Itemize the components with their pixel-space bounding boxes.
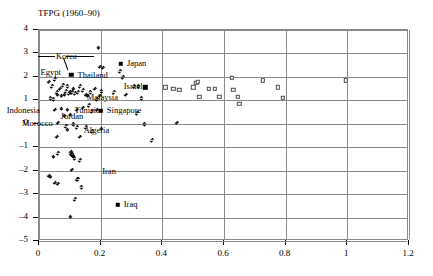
y-axis-tick-label: –4 [6, 211, 28, 221]
data-point-diamond-filled [70, 165, 74, 169]
data-point-square-open [260, 78, 264, 82]
data-point-diamond-filled [72, 85, 76, 89]
data-point-diamond-filled [100, 87, 104, 91]
data-point-diamond-filled [56, 149, 60, 153]
point-label-singapore: Singapore [107, 105, 141, 115]
data-point-diamond-filled [47, 78, 51, 82]
y-axis-tick-label: 2 [6, 70, 28, 80]
y-axis-tick-label: –3 [6, 187, 28, 197]
chart-root: TFPG (1960–90) 43210–1–2–3–4–500.20.40.6… [0, 0, 433, 276]
data-point-square-open [217, 95, 221, 99]
x-axis-tick-mark [408, 240, 409, 245]
y-axis-tick-label: 3 [6, 46, 28, 56]
point-label-japan: Japan [127, 58, 146, 68]
data-point-square-open [206, 86, 210, 90]
data-point-diamond-filled [66, 106, 70, 110]
data-point-diamond-filled [78, 156, 82, 160]
data-point-diamond-filled [80, 183, 84, 187]
data-point-square-open [196, 79, 200, 83]
data-point-square-open [213, 86, 217, 90]
gridline-horizontal [39, 171, 407, 172]
data-point-square-open [197, 95, 201, 99]
y-axis-tick-label: –5 [6, 234, 28, 244]
data-point-diamond-filled [143, 120, 147, 124]
data-point-square-open [280, 96, 284, 100]
data-point-diamond-filled [61, 81, 65, 85]
data-point-square-open [171, 86, 175, 90]
data-point-square-open [236, 95, 240, 99]
x-axis-tick-label: 0.6 [208, 248, 238, 258]
x-axis-tick-label: 1.2 [393, 248, 423, 258]
y-axis-tick-label: 1 [6, 93, 28, 103]
gridline-horizontal [39, 218, 407, 219]
point-label-jordan: Jordan [61, 111, 84, 121]
data-point-diamond-filled [69, 212, 73, 216]
leader-line-horizontal [66, 56, 94, 57]
data-point-square-open [344, 78, 348, 82]
data-point-diamond-filled [70, 148, 74, 152]
x-axis-tick-label: 0.8 [270, 248, 300, 258]
data-point-square-filled [143, 85, 147, 89]
data-point-square-open [276, 85, 280, 89]
data-point-square-open [177, 88, 181, 92]
y-axis-tick-label: –1 [6, 140, 28, 150]
plot-area: KoreaEgyptThailandJapanIsraelMalaysiaInd… [38, 29, 408, 240]
data-point-diamond-filled [49, 172, 53, 176]
data-point-diamond-filled [66, 82, 70, 86]
point-label-egypt: Egypt [41, 67, 61, 77]
data-point-square-open [231, 88, 235, 92]
y-axis-tick-label: 4 [6, 23, 28, 33]
point-label-iraq: Iraq [124, 199, 138, 209]
point-label-thailand: Thailand [78, 70, 108, 80]
data-point-diamond-filled [121, 73, 125, 77]
data-point-diamond-filled [55, 133, 59, 137]
gridline-horizontal [39, 241, 407, 242]
data-point-square-open [230, 76, 234, 80]
y-axis-tick-label: –2 [6, 164, 28, 174]
data-point-diamond-filled [78, 133, 82, 137]
data-point-diamond-filled [140, 94, 144, 98]
data-point-diamond-filled [118, 67, 122, 71]
gridline-vertical [162, 30, 163, 239]
data-point-square-filled [115, 202, 119, 206]
gridline-vertical [347, 30, 348, 239]
point-label-morocco: Morocco [22, 118, 53, 128]
gridline-horizontal [39, 53, 407, 54]
data-point-diamond-filled [60, 105, 64, 109]
data-point-diamond-filled [81, 86, 85, 90]
point-label-iran: Iran [102, 166, 116, 176]
chart-title: TFPG (1960–90) [38, 8, 100, 18]
data-point-diamond-filled [73, 195, 77, 199]
data-point-diamond-filled [76, 175, 80, 179]
leader-line-horizontal [38, 56, 55, 57]
point-label-malaysia: Malaysia [87, 92, 118, 102]
point-label-algeria: Algeria [84, 125, 110, 135]
x-axis-tick-label: 0.2 [85, 248, 115, 258]
data-point-square-open [191, 85, 195, 89]
data-point-diamond-filled [175, 119, 179, 123]
gridline-vertical [224, 30, 225, 239]
data-point-diamond-filled [93, 85, 97, 89]
point-label-israel: Israel [124, 81, 143, 91]
data-point-square-open [163, 85, 167, 89]
data-point-diamond-filled [75, 123, 79, 127]
data-point-diamond-filled [56, 180, 60, 184]
data-point-diamond-filled [53, 106, 57, 110]
x-axis-tick-label: 0.4 [146, 248, 176, 258]
data-point-diamond-filled [66, 126, 70, 130]
data-point-diamond-filled [150, 136, 154, 140]
x-axis-tick-label: 0 [23, 248, 53, 258]
data-point-square-open [237, 102, 241, 106]
data-point-diamond-filled [97, 44, 101, 48]
data-point-square-filled [69, 72, 73, 76]
data-point-square-filled [119, 62, 123, 66]
gridline-horizontal [39, 147, 407, 148]
gridline-vertical [286, 30, 287, 239]
gridline-vertical [39, 30, 40, 239]
data-point-diamond-filled [98, 62, 102, 66]
gridline-horizontal [39, 194, 407, 195]
gridline-vertical [409, 30, 410, 239]
x-axis-tick-label: 1 [331, 248, 361, 258]
point-label-indonesia: Indonesia [7, 105, 40, 115]
gridline-horizontal [39, 30, 407, 31]
